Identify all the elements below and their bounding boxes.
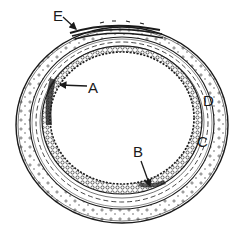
cross-section-diagram: E A D C B [0, 0, 239, 234]
mucosa-layer [42, 46, 202, 194]
label-e: E [53, 7, 63, 24]
label-b: B [133, 143, 143, 160]
label-c: C [197, 133, 208, 150]
label-a: A [88, 79, 98, 96]
pointer-e [63, 17, 76, 29]
label-d: D [203, 92, 214, 109]
